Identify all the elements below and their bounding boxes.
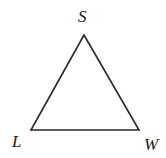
edge-s-l bbox=[31, 35, 84, 130]
edge-w-s bbox=[84, 35, 139, 130]
vertex-label-w: W bbox=[144, 136, 158, 153]
triangle-diagram: S L W bbox=[0, 0, 166, 158]
vertex-label-s: S bbox=[78, 8, 87, 25]
vertex-label-l: L bbox=[12, 133, 21, 150]
